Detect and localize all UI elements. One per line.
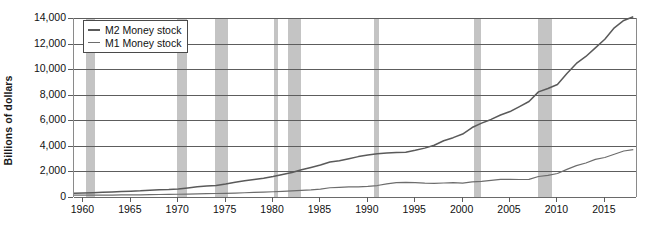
x-tick-label: 1975 (203, 203, 247, 215)
x-tick-label: 2005 (487, 203, 531, 215)
x-tick-mark (177, 197, 178, 202)
y-tick-label: 12,000 (14, 37, 66, 49)
y-tick-label: 10,000 (14, 62, 66, 74)
x-tick-label: 1990 (345, 203, 389, 215)
x-tick-mark (414, 197, 415, 202)
x-tick-mark (367, 197, 368, 202)
x-tick-label: 2015 (582, 203, 626, 215)
legend-line-swatch-m1 (88, 42, 100, 43)
y-tick-label: 6,000 (14, 113, 66, 125)
x-tick-label: 1970 (155, 203, 199, 215)
series-line-m1 (74, 150, 633, 196)
y-tick-label: 0 (14, 190, 66, 202)
legend-item-m1: M1 Money stock (88, 36, 181, 49)
chart-legend: M2 Money stock M1 Money stock (83, 20, 188, 53)
money-stock-chart: Billions of dollars 02,0004,0006,0008,00… (0, 0, 655, 241)
x-tick-mark (130, 197, 131, 202)
x-tick-label: 1965 (108, 203, 152, 215)
x-tick-label: 2000 (440, 203, 484, 215)
gridline (74, 197, 636, 198)
legend-item-m2: M2 Money stock (88, 23, 181, 36)
x-tick-mark (556, 197, 557, 202)
y-tick-label: 2,000 (14, 164, 66, 176)
y-tick-label: 14,000 (14, 11, 66, 23)
x-tick-mark (225, 197, 226, 202)
x-tick-mark (509, 197, 510, 202)
x-tick-mark (319, 197, 320, 202)
y-tick-mark (68, 197, 73, 198)
y-tick-label: 8,000 (14, 88, 66, 100)
x-tick-label: 1985 (297, 203, 341, 215)
x-tick-label: 1995 (392, 203, 436, 215)
x-tick-label: 1980 (250, 203, 294, 215)
x-tick-mark (82, 197, 83, 202)
legend-label-m2: M2 Money stock (105, 24, 181, 36)
legend-label-m1: M1 Money stock (105, 37, 181, 49)
x-tick-mark (462, 197, 463, 202)
x-tick-mark (604, 197, 605, 202)
x-tick-label: 2010 (534, 203, 578, 215)
y-tick-label: 4,000 (14, 139, 66, 151)
x-tick-label: 1960 (60, 203, 104, 215)
legend-line-swatch-m2 (88, 29, 100, 31)
x-tick-mark (272, 197, 273, 202)
